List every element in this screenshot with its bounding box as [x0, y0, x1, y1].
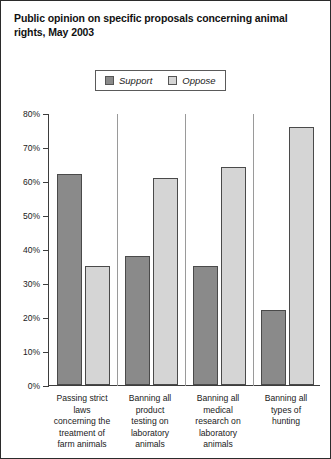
x-axis-category-label: Banning allmedicalresearch onlaboratorya…: [184, 393, 252, 451]
legend-entry-support: Support: [105, 75, 152, 86]
bar-oppose-4: [289, 127, 314, 385]
x-axis-category-label: Banning allproducttesting onlaboratoryan…: [116, 393, 184, 451]
y-axis-tick-label: 40%: [23, 245, 40, 255]
y-axis-tick-mark: [43, 284, 48, 285]
bar-support-3: [193, 266, 218, 385]
y-axis-tick-mark: [43, 318, 48, 319]
x-axis-category-label-line: testing on: [116, 416, 184, 428]
x-axis-category-label-line: types of: [252, 405, 320, 417]
y-axis-tick-label: 70%: [23, 143, 40, 153]
chart-figure: Public opinion on specific proposals con…: [0, 0, 331, 459]
x-axis-category-label-line: laboratory: [184, 428, 252, 440]
x-axis-category-label: Banning alltypes ofhunting: [252, 393, 320, 428]
x-axis-category-label-line: Passing strict: [48, 393, 116, 405]
x-axis-labels: Passing strictlawsconcerning thetreatmen…: [48, 393, 321, 455]
x-axis-category-label-line: medical: [184, 405, 252, 417]
x-axis-category-label-line: laboratory: [116, 428, 184, 440]
y-axis-tick-label: 0%: [28, 381, 40, 391]
x-axis-category-label-line: animals: [184, 439, 252, 451]
x-axis-category-label-line: product: [116, 405, 184, 417]
bar-oppose-3: [221, 167, 246, 385]
bar-oppose-1: [85, 266, 110, 385]
x-axis-category-label-line: laws: [48, 405, 116, 417]
y-axis-tick-mark: [43, 148, 48, 149]
x-axis-category-label-line: Banning all: [184, 393, 252, 405]
legend-label-support: Support: [119, 75, 152, 86]
x-axis-category-label-line: Banning all: [252, 393, 320, 405]
title-block: Public opinion on specific proposals con…: [14, 12, 314, 39]
legend-label-oppose: Oppose: [182, 75, 215, 86]
x-axis-category-label: Passing strictlawsconcerning thetreatmen…: [48, 393, 116, 451]
x-axis-category-label-line: farm animals: [48, 439, 116, 451]
plot-area: 0%10%20%30%40%50%60%70%80%: [48, 114, 320, 386]
page-title: Public opinion on specific proposals con…: [14, 12, 314, 39]
x-axis-line: [48, 385, 320, 386]
bar-support-2: [125, 256, 150, 385]
x-axis-category-label-line: animals: [116, 439, 184, 451]
y-axis-tick-mark: [43, 386, 48, 387]
y-axis-tick-label: 80%: [23, 109, 40, 119]
chart-legend: Support Oppose: [95, 70, 226, 91]
y-axis-tick-mark: [43, 182, 48, 183]
y-axis-tick-label: 10%: [23, 347, 40, 357]
legend-entry-oppose: Oppose: [168, 75, 215, 86]
y-axis-tick-mark: [43, 250, 48, 251]
legend-swatch-support: [105, 76, 114, 85]
legend-swatch-oppose: [168, 76, 177, 85]
x-axis-category-label-line: hunting: [252, 416, 320, 428]
bar-oppose-2: [153, 178, 178, 385]
x-axis-category-label-line: research on: [184, 416, 252, 428]
y-axis-tick-label: 20%: [23, 313, 40, 323]
x-axis-category-label-line: treatment of: [48, 428, 116, 440]
x-axis-category-label-line: Banning all: [116, 393, 184, 405]
x-axis-category-label-line: concerning the: [48, 416, 116, 428]
y-axis-tick-mark: [43, 216, 48, 217]
y-axis-tick-mark: [43, 114, 48, 115]
y-axis-tick-mark: [43, 352, 48, 353]
y-axis-tick-label: 30%: [23, 279, 40, 289]
y-axis-tick-label: 60%: [23, 177, 40, 187]
bars-layer: [49, 114, 320, 385]
bar-support-4: [261, 310, 286, 385]
y-axis-tick-label: 50%: [23, 211, 40, 221]
bar-support-1: [57, 174, 82, 385]
